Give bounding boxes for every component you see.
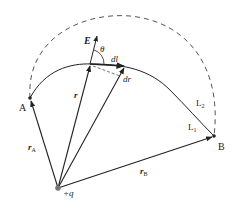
point-A [28, 96, 32, 100]
charge-q [55, 185, 61, 191]
path-L1 [30, 64, 214, 136]
label-L1: L1 [188, 122, 197, 133]
label-charge: +q [63, 188, 74, 198]
vector-r [58, 66, 90, 188]
point-B [212, 134, 216, 138]
label-dr: dr [123, 74, 132, 84]
label-r: r [74, 90, 78, 100]
label-dl: dl [111, 54, 119, 64]
vector-rA [31, 101, 58, 188]
label-rA: rA [28, 142, 37, 153]
label-A: A [19, 102, 27, 113]
diagram-canvas: E θ dl dr r A B rA rB L1 L2 +q [0, 0, 235, 206]
vector-dl [90, 64, 124, 66]
dashed-dr-guide [93, 66, 120, 76]
label-B: B [218, 141, 225, 152]
label-L2: L2 [196, 98, 205, 109]
vector-E [90, 36, 97, 64]
label-theta: θ [100, 44, 105, 54]
label-rB: rB [140, 166, 148, 177]
label-E: E [83, 35, 91, 46]
vector-rB [58, 137, 212, 188]
